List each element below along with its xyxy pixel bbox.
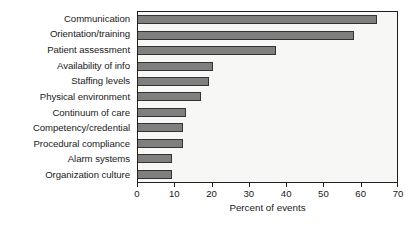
category-label: Communication (64, 14, 134, 24)
bar (138, 139, 183, 148)
category-label: Physical environment (40, 92, 134, 102)
category-label: Staffing levels (71, 76, 134, 86)
x-tick (361, 183, 362, 187)
bar-row (138, 123, 397, 132)
plot-area (137, 11, 398, 183)
x-axis-title: Percent of events (137, 202, 398, 213)
x-tick (249, 183, 250, 187)
category-label: Procedural compliance (33, 139, 134, 149)
bars-layer (138, 12, 397, 182)
x-tick-label: 50 (318, 188, 329, 199)
x-tick (174, 183, 175, 187)
bar-row (138, 15, 397, 24)
x-tick (323, 183, 324, 187)
x-tick (286, 183, 287, 187)
bar-row (138, 62, 397, 71)
bar (138, 92, 201, 101)
category-label: Patient assessment (47, 45, 134, 55)
bar (138, 108, 186, 117)
x-tick-label: 70 (393, 188, 404, 199)
x-tick-label: 40 (281, 188, 292, 199)
bar (138, 46, 276, 55)
category-axis: CommunicationOrientation/trainingPatient… (0, 11, 134, 183)
x-tick-label: 60 (355, 188, 366, 199)
x-tick-label: 10 (169, 188, 180, 199)
bar (138, 15, 377, 24)
x-tick (137, 183, 138, 187)
category-label: Alarm systems (68, 154, 134, 164)
bar-row (138, 108, 397, 117)
bar (138, 170, 172, 179)
bar (138, 154, 172, 163)
x-tick-label: 0 (134, 188, 139, 199)
bar (138, 62, 213, 71)
x-tick (397, 183, 398, 187)
category-label: Continuum of care (52, 108, 134, 118)
category-label: Competency/credential (33, 123, 134, 133)
bar-row (138, 170, 397, 179)
bar-row (138, 92, 397, 101)
category-label: Organization culture (45, 170, 134, 180)
category-label: Availability of info (57, 61, 134, 71)
bar-row (138, 139, 397, 148)
category-label: Orientation/training (50, 29, 134, 39)
bar-row (138, 31, 397, 40)
bar-row (138, 77, 397, 86)
x-tick-label: 30 (244, 188, 255, 199)
bar (138, 123, 183, 132)
bar (138, 77, 209, 86)
bar-row (138, 154, 397, 163)
bar-row (138, 46, 397, 55)
bar (138, 31, 354, 40)
bar-chart-figure: CommunicationOrientation/trainingPatient… (0, 0, 411, 226)
x-tick (212, 183, 213, 187)
x-tick-label: 20 (206, 188, 217, 199)
